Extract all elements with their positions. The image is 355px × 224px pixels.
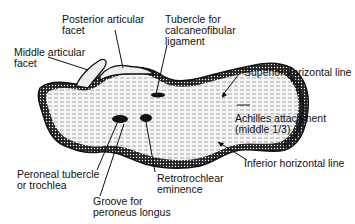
label-groove-peroneus-longus: Groove for peroneus longus [93, 196, 171, 218]
retrotrochlear-eminence-mark [140, 114, 152, 122]
label-peroneal-tubercle: Peroneal tubercle or trochlea [17, 169, 99, 191]
label-retrotrochlear-eminence: Retrotrochlear eminence [157, 173, 224, 195]
label-inferior-horizontal-line: Inferior horizontal line [244, 158, 344, 169]
label-achilles-attachment: Achilles attachment (middle 1/3) [235, 113, 326, 135]
calcaneofibular-tubercle-mark [151, 93, 165, 98]
peroneal-tubercle-mark [112, 115, 128, 123]
label-superior-horizontal-line: Superior horizontal line [244, 67, 351, 78]
label-middle-articular-facet: Middle articular facet [14, 47, 85, 69]
label-posterior-articular-facet: Posterior articular facet [62, 14, 144, 36]
label-tubercle-calcaneofibular: Tubercle for calcaneofibular ligament [165, 14, 236, 47]
